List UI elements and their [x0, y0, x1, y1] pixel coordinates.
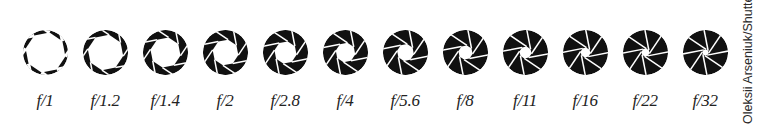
aperture-icon — [562, 29, 609, 76]
aperture-stop: f/11 — [495, 28, 555, 118]
f-stop-label: f/1.2 — [75, 91, 135, 111]
aperture-icon — [682, 29, 729, 76]
aperture-stop: f/1 — [15, 28, 75, 118]
aperture-icon — [202, 29, 249, 76]
aperture-icon — [442, 29, 489, 76]
aperture-icon — [382, 29, 429, 76]
aperture-icon — [322, 29, 369, 76]
photo-credit: Oleksii Arseniuk/Shutters — [741, 0, 755, 124]
aperture-stop: f/5.6 — [375, 28, 435, 118]
f-stop-label: f/1 — [15, 91, 75, 111]
aperture-stop: f/4 — [315, 28, 375, 118]
aperture-icon — [262, 29, 309, 76]
aperture-stop: f/8 — [435, 28, 495, 118]
aperture-icon — [142, 29, 189, 76]
aperture-icon — [622, 29, 669, 76]
aperture-stop: f/32 — [675, 28, 735, 118]
f-stop-label: f/5.6 — [375, 91, 435, 111]
aperture-stop: f/16 — [555, 28, 615, 118]
aperture-stop: f/22 — [615, 28, 675, 118]
f-stop-label: f/4 — [315, 91, 375, 111]
aperture-icon — [82, 29, 129, 76]
f-stop-label: f/2 — [195, 91, 255, 111]
aperture-stops-row: f/1f/1.2f/1.4f/2f/2.8f/4f/5.6f/8f/11f/16… — [0, 0, 782, 136]
f-stop-label: f/32 — [675, 91, 735, 111]
f-stop-label: f/11 — [495, 91, 555, 111]
f-stop-label: f/16 — [555, 91, 615, 111]
aperture-stop: f/1.2 — [75, 28, 135, 118]
aperture-stop: f/2 — [195, 28, 255, 118]
aperture-stop: f/1.4 — [135, 28, 195, 118]
aperture-icon — [22, 29, 69, 76]
f-stop-label: f/2.8 — [255, 91, 315, 111]
aperture-icon — [502, 29, 549, 76]
f-stop-label: f/1.4 — [135, 91, 195, 111]
f-stop-label: f/22 — [615, 91, 675, 111]
aperture-stop: f/2.8 — [255, 28, 315, 118]
f-stop-label: f/8 — [435, 91, 495, 111]
